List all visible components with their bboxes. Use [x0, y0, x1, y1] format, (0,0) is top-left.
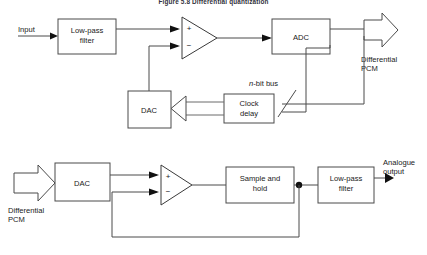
figure-container: Figure 5.8 Differential quantization Inp… [0, 0, 427, 255]
decoder-dac-label: DAC [74, 179, 91, 188]
encoder-lowpass-label-line1: Low-pass [71, 26, 104, 35]
encoder-dac-label: DAC [141, 106, 158, 115]
decoder-pcm-input-arrow [14, 165, 55, 201]
decoder-output-label-line2: output [383, 167, 405, 176]
decoder-summing-amplifier [161, 165, 192, 205]
encoder-output-label-line1: Differential [361, 55, 397, 64]
encoder-bus-label: n-bit bus [249, 79, 278, 88]
decoder-amp-plus-sign: + [166, 172, 171, 181]
decoder-output-label-line1: Analogue [383, 158, 415, 167]
decoder-lowpass-label-line2: filter [339, 184, 354, 193]
encoder-clock-label-line1: Clock [240, 99, 259, 108]
decoder-dac-to-amp-wire [110, 172, 159, 179]
decoder-input-label-line1: Differential [8, 206, 44, 215]
block-diagram-canvas: Input Low-pass filter + − ADC [0, 0, 427, 255]
encoder-lpf-to-amp-wire [116, 26, 180, 33]
encoder-dac-input-arrow [171, 96, 186, 121]
decoder-amp-minus-sign: − [166, 187, 171, 196]
encoder-input-label: Input [18, 25, 36, 34]
decoder-sample-label-line2: hold [253, 184, 267, 193]
decoder-sample-label-line1: Sample and [240, 174, 281, 183]
encoder-diagram: Input Low-pass filter + − ADC [18, 13, 398, 128]
encoder-adc-feedback-wire [282, 45, 330, 112]
encoder-clock-label-line2: delay [240, 109, 258, 118]
encoder-dac-to-amp-wire [149, 43, 180, 92]
encoder-lowpass-label-line2: filter [80, 36, 95, 45]
encoder-pcm-output-arrow [364, 13, 398, 47]
encoder-amp-plus-sign: + [187, 24, 192, 33]
encoder-amp-minus-sign: − [187, 41, 192, 50]
encoder-bus-label-rest: -bit bus [253, 79, 278, 88]
decoder-input-label-line2: PCM [8, 215, 25, 224]
encoder-amp-to-adc-wire [217, 35, 272, 42]
encoder-adc-label: ADC [293, 33, 310, 42]
decoder-lowpass-label-line1: Low-pass [330, 174, 363, 183]
decoder-diagram: Differential PCM DAC + − Sample and hold [8, 158, 415, 237]
